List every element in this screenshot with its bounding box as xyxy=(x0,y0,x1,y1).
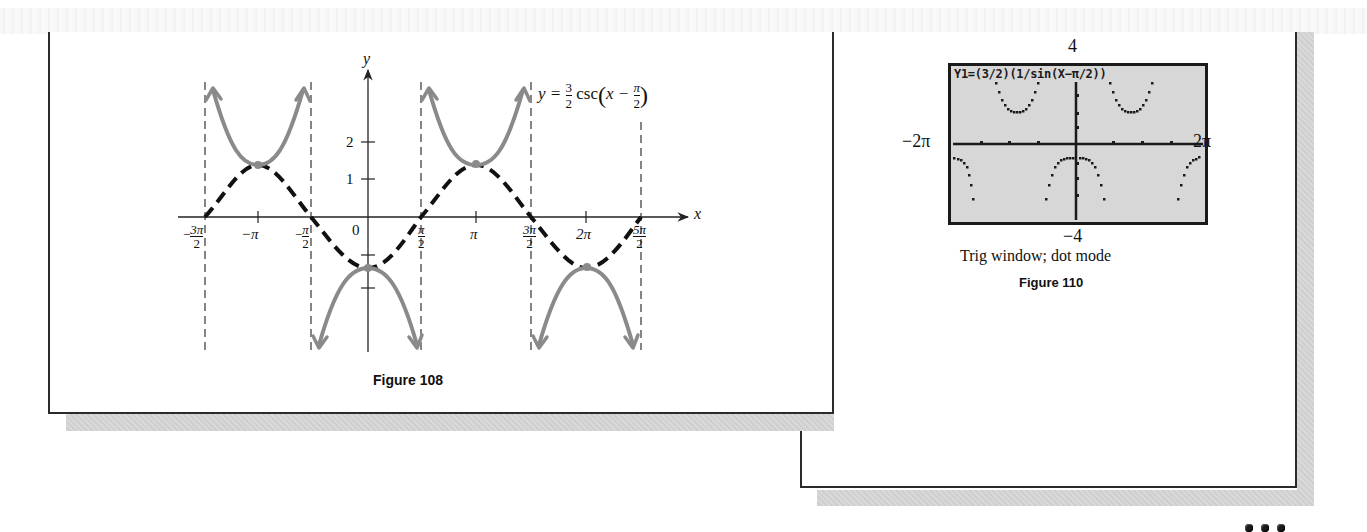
origin-label: 0 xyxy=(352,222,360,239)
x-tick-label-neg-pi-2: −π2 xyxy=(295,223,309,250)
x-tick-label-pi: π xyxy=(470,226,478,243)
page-dot-icon[interactable] xyxy=(1245,524,1253,532)
y-tick-label-2: 2 xyxy=(346,134,354,151)
window-xmin-label: −2π xyxy=(902,131,930,152)
x-tick-label-5pi-2: 5π2 xyxy=(633,223,646,250)
x-tick-label-pi-2: π2 xyxy=(418,223,425,250)
x-tick-label-2pi: 2π xyxy=(576,226,591,243)
y-axis-label: y xyxy=(363,50,370,68)
x-tick-label-neg-3pi-2: −3π2 xyxy=(183,223,203,250)
page-dot-icon[interactable] xyxy=(1261,524,1269,532)
x-axis-label: x xyxy=(694,205,701,223)
calculator-plot xyxy=(951,66,1205,222)
figure-110-caption: Figure 110 xyxy=(1019,275,1083,290)
equation-label: y = 32 csc(x − π2) xyxy=(538,80,648,111)
calculator-formula: Y1=(3/2)(1/sin(X−π/2)) xyxy=(954,67,1106,81)
pagination-dots[interactable] xyxy=(1237,518,1285,532)
x-tick-label-neg-pi: −π xyxy=(241,226,259,243)
calculator-screen: Y1=(3/2)(1/sin(X−π/2)) xyxy=(948,63,1208,225)
y-tick-label-1: 1 xyxy=(346,171,354,188)
window-xmax-label: 2π xyxy=(1193,131,1211,152)
figure-110-subcaption: Trig window; dot mode xyxy=(960,247,1111,265)
figure-108-caption: Figure 108 xyxy=(373,372,443,388)
window-ymin-label: −4 xyxy=(1063,226,1082,247)
x-tick-label-3pi-2: 3π2 xyxy=(523,223,536,250)
window-ymax-label: 4 xyxy=(1068,36,1077,57)
page-dot-icon[interactable] xyxy=(1277,524,1285,532)
